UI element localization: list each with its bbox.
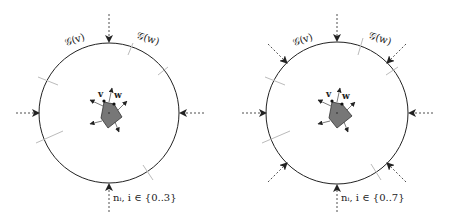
vertex-v-label: v bbox=[97, 89, 104, 99]
vertex-w-label: w bbox=[341, 91, 350, 101]
vertex-v-dot bbox=[102, 99, 105, 102]
vertex-w-label: w bbox=[113, 90, 122, 100]
gauss-map-panel-left: v w 𝒢(v) 𝒢(w) nᵢ, i ∈ {0..3} bbox=[16, 14, 204, 212]
vertex-v-dot bbox=[330, 99, 333, 102]
vertex-w-dot bbox=[340, 102, 343, 105]
normals-label: nᵢ, i ∈ {0..3} bbox=[113, 192, 177, 203]
vertex-w-dot bbox=[112, 102, 115, 105]
diagram-canvas: v w 𝒢(v) 𝒢(w) nᵢ, i ∈ {0..3} bbox=[0, 0, 449, 221]
vertex-v-label: v bbox=[325, 89, 332, 99]
gauss-map-panel-right: v w 𝒢(v) 𝒢(w) nᵢ, i ∈ {0..7} bbox=[242, 14, 433, 212]
gauss-region-w-label: 𝒢(w) bbox=[135, 29, 161, 47]
normals-label: nᵢ, i ∈ {0..7} bbox=[341, 192, 405, 203]
gauss-region-w-label: 𝒢(w) bbox=[367, 29, 393, 47]
gauss-region-v-label: 𝒢(v) bbox=[291, 31, 314, 48]
gauss-region-v-label: 𝒢(v) bbox=[63, 31, 86, 48]
